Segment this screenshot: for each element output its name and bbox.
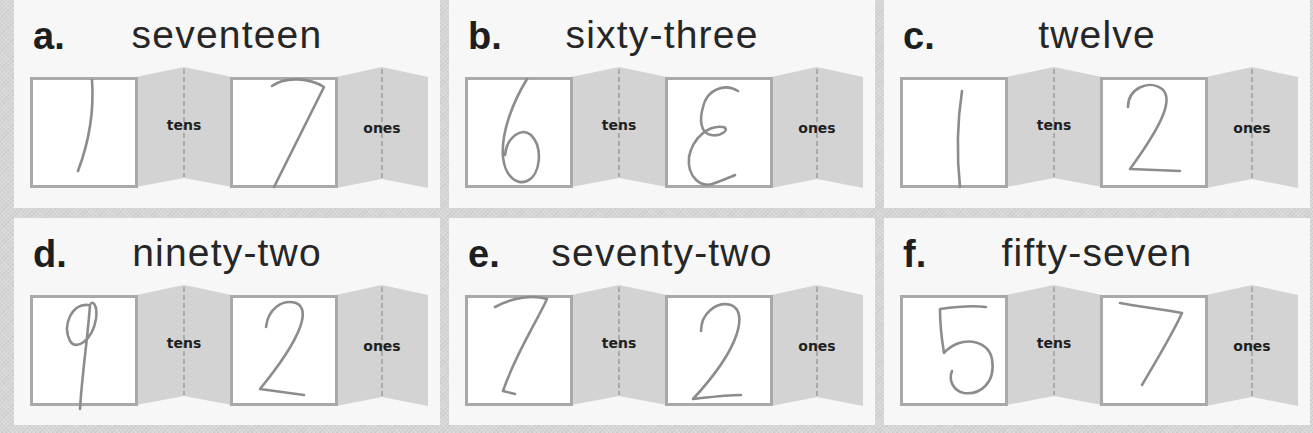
place-value-strip: tens ones	[30, 67, 430, 193]
problem-panel-c: c. twelve tens ones	[884, 0, 1310, 208]
problem-panel-e: e. seventy-two tens ones	[449, 218, 875, 425]
problem-panel-b: b. sixty-three tens ones	[449, 0, 875, 208]
problem-panel-f: f. fifty-seven tens ones	[884, 218, 1310, 425]
place-value-strip: tens ones	[900, 285, 1300, 411]
number-word: ninety-two	[14, 233, 440, 273]
ones-label: ones	[363, 120, 400, 136]
number-word: fifty-seven	[884, 233, 1310, 273]
ones-label: ones	[1233, 120, 1270, 136]
ones-answer-box[interactable]	[667, 297, 772, 405]
tens-label: tens	[1037, 117, 1072, 133]
tens-label: tens	[602, 117, 637, 133]
tens-label: tens	[167, 335, 202, 351]
ones-label: ones	[1233, 338, 1270, 354]
place-value-strip: tens ones	[465, 67, 865, 193]
ones-answer-box[interactable]	[1102, 297, 1207, 405]
tens-answer-box[interactable]	[32, 79, 137, 187]
number-word: twelve	[884, 15, 1310, 55]
ones-answer-box[interactable]	[667, 79, 772, 187]
place-value-strip: tens ones	[900, 67, 1300, 193]
problem-panel-a: a. seventeen tens ones	[14, 0, 440, 208]
place-value-strip: tens ones	[30, 285, 430, 411]
ones-answer-box[interactable]	[232, 297, 337, 405]
tens-label: tens	[1037, 335, 1072, 351]
number-word: sixty-three	[449, 15, 875, 55]
problem-panel-d: d. ninety-two tens ones	[14, 218, 440, 425]
tens-answer-box[interactable]	[32, 297, 137, 405]
number-word: seventy-two	[449, 233, 875, 273]
ones-label: ones	[798, 120, 835, 136]
ones-label: ones	[798, 338, 835, 354]
tens-answer-box[interactable]	[902, 79, 1007, 187]
ones-label: ones	[363, 338, 400, 354]
tens-label: tens	[167, 117, 202, 133]
tens-label: tens	[602, 335, 637, 351]
place-value-strip: tens ones	[465, 285, 865, 411]
number-word: seventeen	[14, 15, 440, 55]
